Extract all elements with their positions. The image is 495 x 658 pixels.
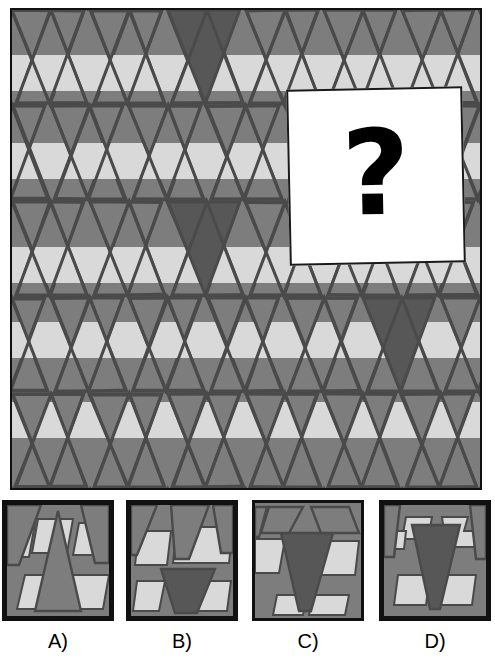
answer-b-svg (131, 505, 233, 616)
answer-d-svg (384, 505, 486, 616)
answer-option-d-label: D) (379, 630, 491, 653)
answer-option-c-thumbnail[interactable] (252, 500, 364, 621)
answer-option-c[interactable]: C) (252, 500, 364, 653)
answer-option-b[interactable]: B) (126, 500, 238, 653)
answer-option-b-label: B) (126, 630, 238, 653)
pattern-shape (255, 539, 285, 573)
answer-a-svg (7, 505, 109, 616)
missing-piece-card: ? (286, 86, 466, 266)
answer-c-svg (255, 503, 361, 618)
answer-option-a[interactable]: A) (2, 500, 114, 653)
pattern-shape (133, 581, 165, 611)
answer-option-d-thumbnail[interactable] (379, 500, 491, 621)
answer-option-d[interactable]: D) (379, 500, 491, 653)
puzzle-root: ? A) B) C) D) (0, 0, 495, 658)
answer-option-b-thumbnail[interactable] (126, 500, 238, 621)
answer-option-a-label: A) (2, 630, 114, 653)
answer-option-a-thumbnail[interactable] (2, 500, 114, 621)
pattern-band (12, 55, 480, 91)
answer-option-c-label: C) (252, 630, 364, 653)
question-mark-glyph: ? (340, 113, 411, 232)
answer-options-row: A) B) C) D) (0, 500, 495, 658)
